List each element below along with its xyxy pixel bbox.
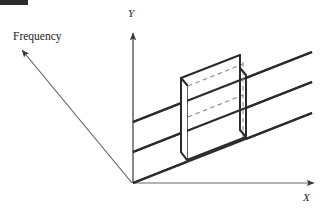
depth-line-top-left-seg <box>133 103 181 122</box>
slab-group <box>181 55 246 160</box>
frequency-axis-line <box>22 50 132 183</box>
x-axis-label: X <box>303 192 310 203</box>
depth-line-bottom-front <box>246 113 312 139</box>
depth-line-top-front <box>246 52 312 78</box>
depth-line-middle-front <box>246 82 312 108</box>
figure-root: Y X Frequency <box>0 0 328 214</box>
frequency-axis-label: Frequency <box>13 31 62 43</box>
depth-line-bottom-left-seg <box>133 162 186 183</box>
y-axis-label: Y <box>128 8 134 19</box>
depth-line-middle-left-seg <box>133 133 181 152</box>
